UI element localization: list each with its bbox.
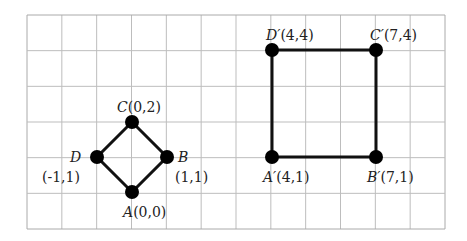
label-A-prime: A′(4,1) [261, 169, 310, 185]
point-D-prime [265, 43, 279, 57]
point-C [125, 115, 139, 129]
label-B-prime: B′(7,1) [366, 169, 414, 185]
point-A-prime [265, 150, 279, 164]
point-B [160, 150, 174, 164]
label-D-name: D [69, 149, 81, 165]
point-C-prime [369, 43, 383, 57]
label-C: C(0,2) [117, 99, 161, 115]
label-C-prime: C′(7,4) [370, 27, 417, 43]
point-A [125, 185, 139, 199]
label-D-coord: (-1,1) [42, 169, 80, 185]
point-B-prime [369, 150, 383, 164]
label-A: A(0,0) [121, 204, 166, 220]
label-B-name: B [177, 149, 188, 165]
label-D-prime: D′(4,4) [265, 27, 314, 43]
transformed-square [272, 50, 376, 157]
label-B-coord: (1,1) [175, 169, 208, 185]
point-D [90, 150, 104, 164]
coordinate-diagram: C(0,2) D (-1,1) B (1,1) A(0,0) D′(4,4) C… [0, 0, 467, 241]
